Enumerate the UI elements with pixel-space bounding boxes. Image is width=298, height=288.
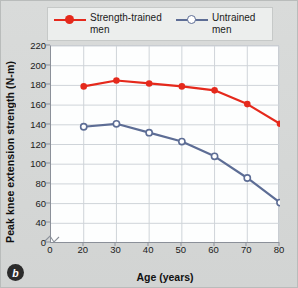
y-tick-label: 40 <box>35 217 46 228</box>
y-tick-mark <box>46 163 50 164</box>
x-tick-mark <box>213 242 214 246</box>
y-tick-label: 80 <box>35 177 46 188</box>
y-tick-mark <box>46 182 50 183</box>
plot-wrapper: 0406080100120140160180200220020304050607… <box>50 45 279 257</box>
y-tick-label: 180 <box>30 79 46 90</box>
x-tick-mark <box>279 242 280 246</box>
y-tick-label: 160 <box>30 99 46 110</box>
y-tick-label: 220 <box>30 40 46 51</box>
chart-svg <box>51 46 280 243</box>
legend-label-line2: men <box>212 24 231 35</box>
chart-legend: Strength-trainedmen Untrainedmen <box>47 7 273 41</box>
y-tick-mark <box>46 45 50 46</box>
y-axis-title: Peak knee extension strength (N-m) <box>1 49 19 254</box>
y-tick-label: 60 <box>35 197 46 208</box>
legend-label-line1: Untrained <box>212 12 255 23</box>
y-tick-mark <box>46 242 50 243</box>
y-tick-label: 140 <box>30 118 46 129</box>
x-tick-mark <box>180 242 181 246</box>
y-tick-mark <box>46 222 50 223</box>
figure-panel: Strength-trainedmen Untrainedmen Peak kn… <box>0 0 298 288</box>
y-tick-mark <box>46 143 50 144</box>
y-tick-mark <box>46 64 50 65</box>
y-tick-label: 120 <box>30 138 46 149</box>
legend-label-line2: men <box>90 24 109 35</box>
filled-circle-marker-icon <box>54 13 86 26</box>
x-tick-mark <box>115 242 116 246</box>
y-tick-mark <box>46 84 50 85</box>
panel-label: b <box>7 264 24 281</box>
legend-label-line1: Strength-trained <box>90 12 162 23</box>
x-tick-mark <box>246 242 247 246</box>
legend-item-strength-trained-men: Strength-trainedmen <box>54 12 176 40</box>
open-circle-marker-icon <box>176 13 208 26</box>
plot-area <box>50 45 279 242</box>
legend-label-untrained-men: Untrainedmen <box>212 12 255 35</box>
y-tick-label: 100 <box>30 158 46 169</box>
x-axis-title: Age (years) <box>51 271 279 283</box>
y-tick-mark <box>46 202 50 203</box>
x-tick-mark <box>148 242 149 246</box>
y-tick-label: 200 <box>30 59 46 70</box>
y-tick-mark <box>46 104 50 105</box>
x-tick-label: 0 <box>47 244 52 255</box>
x-tick-mark <box>82 242 83 246</box>
legend-item-untrained-men: Untrainedmen <box>176 12 255 40</box>
legend-label-strength-trained-men: Strength-trainedmen <box>90 12 162 35</box>
y-tick-mark <box>46 123 50 124</box>
